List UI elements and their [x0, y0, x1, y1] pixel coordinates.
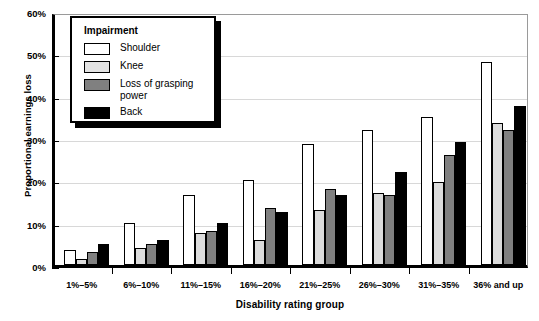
bar: [98, 244, 109, 265]
bar: [64, 250, 75, 265]
x-tick-label: 31%–35%: [418, 280, 459, 290]
legend-swatch: [84, 61, 110, 73]
y-tick-label: 10%: [2, 220, 46, 231]
bar: [492, 123, 503, 265]
legend-swatch: [84, 79, 110, 91]
bar: [265, 208, 276, 265]
x-tick-label: 11%–15%: [180, 280, 221, 290]
bar: [362, 130, 373, 265]
bar: [135, 248, 146, 265]
bar-chart: Proportional earnings loss 0%10%20%30%40…: [0, 0, 539, 321]
bar: [421, 117, 432, 265]
bar: [325, 189, 336, 265]
bar: [157, 240, 168, 265]
chart-legend: Impairment ShoulderKneeLoss of grasping …: [70, 16, 216, 123]
bar: [302, 144, 313, 265]
legend-label: Knee: [120, 60, 224, 72]
bar: [124, 223, 135, 265]
bar: [314, 210, 325, 265]
bar: [276, 212, 287, 265]
legend-swatch: [84, 43, 110, 55]
x-tick: [409, 268, 410, 274]
x-axis-title: Disability rating group: [52, 299, 528, 310]
bar: [76, 259, 87, 265]
legend-label: Back: [120, 106, 224, 118]
bar: [455, 142, 466, 265]
x-tick: [171, 268, 172, 274]
x-tick-label: 36% and up: [473, 280, 523, 290]
x-tick: [350, 268, 351, 274]
bar: [373, 193, 384, 265]
bar: [481, 62, 492, 265]
bar: [514, 106, 525, 265]
legend-label: Loss of grasping power: [120, 78, 224, 102]
x-tick: [290, 268, 291, 274]
bar: [146, 244, 157, 265]
x-tick-label: 21%–25%: [299, 280, 340, 290]
legend-title: Impairment: [84, 25, 138, 36]
y-tick-label: 40%: [2, 93, 46, 104]
bar: [217, 223, 228, 265]
x-tick-label: 1%–5%: [66, 280, 97, 290]
x-tick: [231, 268, 232, 274]
legend-label: Shoulder: [120, 42, 224, 54]
bar: [384, 195, 395, 265]
bar: [243, 180, 254, 265]
bar: [503, 130, 514, 265]
y-tick-label: 50%: [2, 50, 46, 61]
x-tick: [112, 268, 113, 274]
y-tick-label: 0%: [2, 262, 46, 273]
legend-swatch: [84, 107, 110, 119]
y-tick-label: 20%: [2, 177, 46, 188]
bar: [444, 155, 455, 265]
bar: [254, 240, 265, 265]
x-tick-label: 26%–30%: [359, 280, 400, 290]
bar: [87, 252, 98, 265]
x-tick-label: 16%–20%: [240, 280, 281, 290]
bar: [206, 231, 217, 265]
y-tick-label: 30%: [2, 135, 46, 146]
x-tick-label: 6%–10%: [123, 280, 159, 290]
bar: [183, 195, 194, 265]
x-tick: [469, 268, 470, 274]
bar: [433, 182, 444, 265]
y-tick: [52, 268, 59, 269]
bar: [336, 195, 347, 265]
y-tick-label: 60%: [2, 8, 46, 19]
bar: [395, 172, 406, 265]
bar: [195, 233, 206, 265]
